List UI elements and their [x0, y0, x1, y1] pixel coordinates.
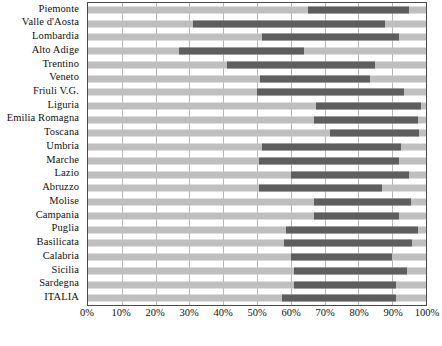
- bar-row: [88, 30, 426, 44]
- range-bar-segment: [294, 267, 407, 274]
- category-label: Alto Adige: [0, 43, 83, 57]
- category-label: Valle d'Aosta: [0, 16, 83, 30]
- range-bar-segment: [314, 116, 417, 123]
- range-bar-segment: [259, 185, 382, 192]
- bar-row: [88, 72, 426, 86]
- category-label: Sicilia: [0, 263, 83, 277]
- category-label: Abruzzo: [0, 181, 83, 195]
- category-label: Molise: [0, 194, 83, 208]
- bar-row: [88, 182, 426, 196]
- category-label: Marche: [0, 153, 83, 167]
- bar-track: [88, 75, 426, 82]
- category-label: Basilicata: [0, 235, 83, 249]
- range-bar-segment: [291, 254, 392, 261]
- range-bar-segment: [284, 240, 412, 247]
- category-label: Liguria: [0, 98, 83, 112]
- bar-row: [88, 99, 426, 113]
- range-bar-segment: [282, 295, 395, 302]
- bar-row: [88, 223, 426, 237]
- range-bar-segment: [314, 212, 399, 219]
- x-axis-tick-label: 100%: [415, 308, 440, 319]
- category-label: Campania: [0, 208, 83, 222]
- x-axis-tick-label: 0%: [80, 308, 94, 319]
- x-axis-tick-label: 50%: [247, 308, 266, 319]
- bar-row: [88, 154, 426, 168]
- category-label: Piemonte: [0, 2, 83, 16]
- range-bar-segment: [257, 89, 404, 96]
- x-axis-tick-label: 40%: [213, 308, 232, 319]
- bar-row: [88, 264, 426, 278]
- range-bar-segment: [294, 281, 395, 288]
- plot-area: [87, 2, 427, 306]
- range-bar-segment: [286, 226, 418, 233]
- bar-row: [88, 3, 426, 17]
- bar-row: [88, 168, 426, 182]
- x-axis-tick-label: 10%: [111, 308, 130, 319]
- bar-row: [88, 58, 426, 72]
- range-bar-segment: [227, 61, 376, 68]
- x-axis-tick-label: 90%: [383, 308, 402, 319]
- category-label: Trentino: [0, 57, 83, 71]
- range-bar-chart: PiemonteValle d'AostaLombardiaAlto Adige…: [0, 0, 442, 346]
- x-axis-tick-label: 70%: [315, 308, 334, 319]
- category-label: Umbria: [0, 139, 83, 153]
- bar-row: [88, 113, 426, 127]
- bar-row: [88, 17, 426, 31]
- bar-row: [88, 236, 426, 250]
- bar-row: [88, 278, 426, 292]
- category-label: ITALIA: [0, 290, 83, 304]
- bar-row: [88, 209, 426, 223]
- category-label-column: PiemonteValle d'AostaLombardiaAlto Adige…: [0, 2, 83, 304]
- range-bar-segment: [193, 20, 386, 27]
- category-label: Calabria: [0, 249, 83, 263]
- range-bar-segment: [260, 75, 370, 82]
- category-label: Sardegna: [0, 277, 83, 291]
- range-bar-segment: [330, 130, 420, 137]
- range-bar-segment: [179, 48, 304, 55]
- category-label: Toscana: [0, 126, 83, 140]
- range-bar-segment: [316, 103, 421, 110]
- category-label: Emilia Romagna: [0, 112, 83, 126]
- x-axis-tick-label: 20%: [145, 308, 164, 319]
- range-bar-segment: [314, 199, 410, 206]
- bar-row: [88, 195, 426, 209]
- x-axis-tick-label: 60%: [281, 308, 300, 319]
- range-bar-segment: [262, 144, 401, 151]
- bar-row: [88, 85, 426, 99]
- range-bar-segment: [262, 34, 399, 41]
- category-label: Friuli V.G.: [0, 84, 83, 98]
- x-axis-tick-labels: 0%10%20%30%40%50%60%70%80%90%100%: [87, 308, 427, 324]
- bar-row: [88, 127, 426, 141]
- category-label: Veneto: [0, 71, 83, 85]
- range-bar-segment: [308, 6, 409, 13]
- category-label: Lombardia: [0, 29, 83, 43]
- category-label: Lazio: [0, 167, 83, 181]
- bar-row: [88, 44, 426, 58]
- x-axis-tick-label: 30%: [179, 308, 198, 319]
- bar-row: [88, 250, 426, 264]
- range-bar-segment: [291, 171, 409, 178]
- range-bar-segment: [259, 157, 399, 164]
- bar-row: [88, 291, 426, 305]
- bar-row: [88, 140, 426, 154]
- x-axis-tick-label: 80%: [349, 308, 368, 319]
- bar-rows: [88, 3, 426, 305]
- category-label: Puglia: [0, 222, 83, 236]
